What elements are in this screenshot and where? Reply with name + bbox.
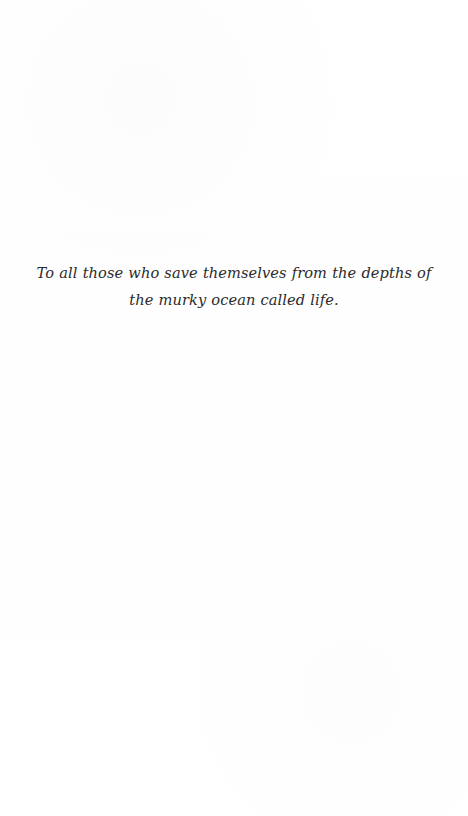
- dedication-page: To all those who save themselves from th…: [0, 0, 468, 816]
- dedication-text: To all those who save themselves from th…: [36, 259, 432, 313]
- paper-texture: [0, 0, 468, 816]
- dedication-block: To all those who save themselves from th…: [36, 259, 432, 313]
